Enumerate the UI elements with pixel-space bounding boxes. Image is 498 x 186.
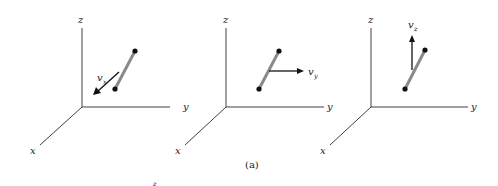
vx-subscript: x	[103, 78, 107, 86]
rod-end-dot	[132, 48, 137, 53]
z-axis-label: z	[222, 14, 229, 25]
y-axis-label: y	[470, 101, 477, 112]
x-axis	[185, 107, 226, 145]
arrowhead-icon	[409, 35, 415, 42]
x-axis	[330, 107, 371, 145]
rod	[115, 51, 135, 89]
panel-vz: z y x v z	[320, 14, 477, 156]
z-axis-label: z	[77, 14, 84, 25]
rod	[259, 51, 279, 89]
vy-subscript: y	[313, 72, 318, 80]
rod	[405, 50, 425, 89]
arrowhead-icon	[93, 87, 101, 95]
rod-end-dot	[256, 86, 261, 91]
vz-subscript: z	[413, 25, 418, 33]
rod-end-dot	[112, 86, 117, 91]
figure-caption: (a)	[245, 159, 259, 170]
x-axis-label: x	[30, 145, 36, 156]
y-axis-label: y	[326, 101, 333, 112]
x-axis-label: x	[175, 145, 181, 156]
next-figure-z-label: z	[152, 180, 157, 186]
panel-vx: z x v x	[30, 14, 170, 156]
rod-end-dot	[276, 48, 281, 53]
z-axis-label: z	[367, 14, 374, 25]
y-axis-label-prev: y	[182, 101, 189, 112]
rod-end-dot	[422, 47, 427, 52]
x-axis	[40, 107, 82, 145]
arrowhead-icon	[297, 68, 304, 74]
rod-end-dot	[402, 86, 407, 91]
figure-canvas: z x v x z y y x v y (a) z y x	[0, 0, 498, 186]
panel-vy: z y y x v y (a)	[175, 14, 333, 170]
x-axis-label: x	[320, 145, 326, 156]
